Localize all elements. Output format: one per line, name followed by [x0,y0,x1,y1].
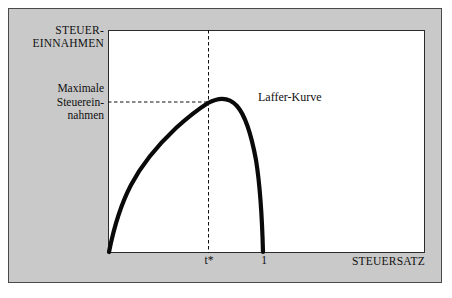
curve-label: Laffer-Kurve [258,90,322,105]
x-tick-label-one: 1 [252,254,276,266]
max-revenue-label-line3: nahmen [68,109,104,121]
laffer-curve-figure: STEUER- EINNAHMEN Maximale Steuerein- na… [0,0,452,298]
max-revenue-label-line2: Steuerein- [57,96,104,108]
x-tick-label-tstar: t* [196,254,222,266]
max-revenue-label-line1: Maximale [57,82,104,94]
max-revenue-label: Maximale Steuerein- nahmen [10,82,104,123]
y-axis-title: STEUER- EINNAHMEN [12,24,104,50]
x-axis-title: STEUERSATZ [352,255,425,268]
y-axis-title-line2: EINNAHMEN [33,37,104,49]
laffer-curve-path [109,99,263,252]
y-axis-title-line1: STEUER- [55,24,104,36]
